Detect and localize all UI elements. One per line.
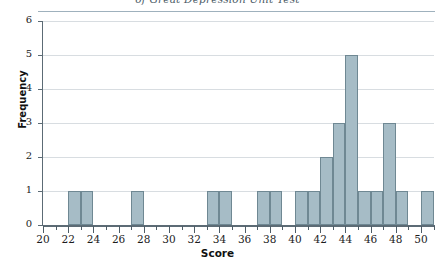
histogram-bar — [333, 123, 346, 225]
histogram-bar — [345, 55, 358, 225]
histogram-bar — [257, 191, 270, 225]
histogram-bar — [131, 191, 144, 225]
x-tick-mark — [194, 226, 195, 233]
x-tick-mark — [421, 226, 422, 233]
y-tick-label: 0 — [4, 218, 32, 229]
x-tick-mark — [358, 226, 359, 230]
y-tick-label: 6 — [4, 14, 32, 25]
y-tick-label: 3 — [4, 116, 32, 127]
x-tick-mark — [270, 226, 271, 233]
x-tick-mark — [119, 226, 120, 233]
histogram-bar — [383, 123, 396, 225]
x-tick-mark — [371, 226, 372, 233]
x-tick-mark — [320, 226, 321, 233]
histogram-bar — [320, 157, 333, 225]
histogram-bar — [421, 191, 434, 225]
histogram-bar — [207, 191, 220, 225]
histogram-bar — [396, 191, 409, 225]
x-tick-mark — [207, 226, 208, 230]
x-tick-mark — [434, 226, 435, 230]
x-tick-mark — [56, 226, 57, 230]
x-tick-mark — [232, 226, 233, 230]
x-tick-mark — [245, 226, 246, 233]
x-tick-mark — [182, 226, 183, 230]
x-tick-label: 50 — [406, 233, 435, 245]
x-axis-line — [43, 225, 435, 227]
y-tick-label: 5 — [4, 48, 32, 59]
x-tick-mark — [295, 226, 296, 233]
x-tick-mark — [68, 226, 69, 233]
x-tick-mark — [106, 226, 107, 230]
plot-area — [43, 21, 434, 225]
x-tick-mark — [408, 226, 409, 230]
x-tick-mark — [383, 226, 384, 230]
x-tick-mark — [219, 226, 220, 233]
histogram-bar — [308, 191, 321, 225]
x-tick-mark — [131, 226, 132, 230]
histogram-bar — [371, 191, 384, 225]
x-tick-mark — [43, 226, 44, 233]
x-tick-mark — [93, 226, 94, 233]
title-divider — [38, 11, 435, 12]
x-tick-mark — [156, 226, 157, 230]
x-tick-mark — [81, 226, 82, 230]
y-tick-label: 4 — [4, 82, 32, 93]
y-axis-label: Frequency — [17, 52, 28, 148]
histogram-bar — [81, 191, 94, 225]
histogram-bar — [295, 191, 308, 225]
chart-title: of Great Depression Unit Test — [0, 0, 435, 5]
x-tick-mark — [169, 226, 170, 233]
x-tick-mark — [282, 226, 283, 230]
x-tick-mark — [396, 226, 397, 233]
x-tick-mark — [308, 226, 309, 230]
x-tick-mark — [257, 226, 258, 230]
histogram-bar — [270, 191, 283, 225]
x-tick-mark — [333, 226, 334, 230]
y-tick-label: 1 — [4, 184, 32, 195]
histogram-bar — [68, 191, 81, 225]
x-axis-label: Score — [0, 247, 435, 259]
histogram-bar — [358, 191, 371, 225]
x-tick-mark — [144, 226, 145, 233]
y-tick-label: 2 — [4, 150, 32, 161]
histogram-figure: of Great Depression Unit Test Frequency … — [0, 0, 435, 261]
histogram-bar — [219, 191, 232, 225]
x-tick-mark — [345, 226, 346, 233]
